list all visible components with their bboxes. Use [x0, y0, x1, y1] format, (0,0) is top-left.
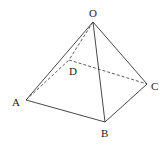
edge-OB — [93, 22, 105, 122]
edge-DC — [69, 60, 147, 84]
vertex-label-B: B — [101, 127, 108, 139]
vertex-label-C: C — [151, 80, 158, 92]
pyramid-diagram: O A B C D — [0, 0, 168, 146]
edge-AD — [26, 60, 69, 100]
edge-AB — [26, 100, 105, 122]
edge-OA — [26, 22, 93, 100]
edge-BC — [105, 84, 147, 122]
vertex-label-O: O — [89, 7, 97, 19]
edge-OC — [93, 22, 147, 84]
edge-OD — [69, 22, 93, 60]
vertex-label-A: A — [12, 96, 20, 108]
vertex-label-D: D — [69, 65, 77, 77]
